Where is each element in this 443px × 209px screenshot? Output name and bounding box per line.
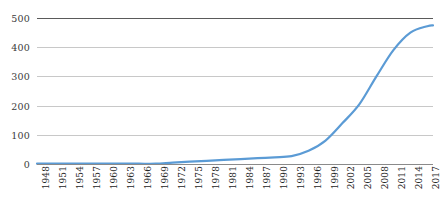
x-tick-label: 1981 <box>228 166 238 189</box>
y-tick-label: 100 <box>11 129 30 140</box>
x-tick-label: 2014 <box>414 166 424 189</box>
y-tick-label: 500 <box>11 13 30 24</box>
x-tick-label: 2017 <box>431 166 441 189</box>
x-tick-label: 1972 <box>177 166 187 189</box>
x-tick-label: 1984 <box>245 166 255 189</box>
x-axis-labels: 1948195119541957196019631966196919721975… <box>37 166 433 209</box>
plot-area <box>37 18 433 164</box>
line-chart: 0100200300400500 19481951195419571960196… <box>0 0 443 209</box>
x-tick-label: 1990 <box>279 166 289 189</box>
x-tick-label: 1996 <box>313 166 323 189</box>
x-tick-label: 1999 <box>330 166 340 189</box>
x-tick-label: 2008 <box>380 166 390 189</box>
x-tick-label: 2002 <box>346 166 356 189</box>
x-tick-label: 1975 <box>194 166 204 189</box>
series-line-group <box>37 18 433 164</box>
y-tick-label: 400 <box>11 42 30 53</box>
x-tick-label: 1978 <box>211 166 221 189</box>
x-tick-label: 2005 <box>363 166 373 189</box>
x-tick-label: 1960 <box>109 166 119 189</box>
x-tick-label: 1963 <box>126 166 136 189</box>
data-series-line <box>37 25 433 163</box>
x-tick-label: 1954 <box>75 166 85 189</box>
x-tick-label: 1957 <box>92 166 102 189</box>
y-tick-label: 0 <box>24 159 30 170</box>
y-tick-label: 300 <box>11 71 30 82</box>
x-axis-line <box>37 164 433 165</box>
x-tick-label: 1966 <box>143 166 153 189</box>
y-axis-labels: 0100200300400500 <box>0 0 34 209</box>
x-tick-label: 1948 <box>41 166 51 189</box>
x-tick-label: 1969 <box>160 166 170 189</box>
x-tick-label: 1993 <box>296 166 306 189</box>
y-tick-label: 200 <box>11 100 30 111</box>
x-tick-label: 1987 <box>262 166 272 189</box>
x-tick-label: 1951 <box>58 166 68 189</box>
x-tick-label: 2011 <box>397 166 407 189</box>
